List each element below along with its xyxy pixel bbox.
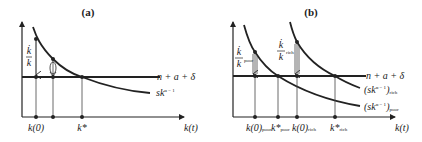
line-label: n + a + δ — [157, 71, 195, 82]
y-label-growth-rich: k̇ k rich — [277, 39, 294, 62]
x-axis-label: k(t) — [395, 122, 410, 134]
svg-text:rich: rich — [286, 50, 294, 55]
panel-b: (b) k̇ k poor — [233, 6, 410, 134]
tick-kstar-poor: k*poor — [271, 122, 290, 133]
savings-curve — [33, 27, 150, 93]
tick-kstar: k* — [77, 122, 86, 133]
line-label: n + a + δ — [366, 70, 404, 81]
tick-k0-rich: k(0)rich — [292, 122, 316, 134]
svg-text:poor: poor — [244, 58, 254, 63]
svg-text:k: k — [27, 57, 32, 68]
svg-text:k̇: k̇ — [27, 45, 32, 56]
panel-b-title: (b) — [304, 6, 318, 19]
curve-rich-label: (skα − 1)rich — [364, 84, 398, 96]
svg-text:k̇: k̇ — [237, 46, 242, 57]
svg-text:k: k — [237, 58, 242, 69]
savings-curve-poor — [244, 25, 360, 106]
panel-a-title: (a) — [82, 6, 95, 19]
savings-curve-rich — [290, 22, 360, 88]
y-label-growth-poor: k̇ k poor — [235, 46, 254, 69]
y-label-growth-rate: k̇ k — [26, 45, 32, 68]
curve-label: skα − 1 — [156, 87, 175, 98]
svg-text:k: k — [279, 51, 284, 62]
curve-poor-label: (skα − 1)poor — [364, 101, 399, 113]
x-axis-label: k(t) — [184, 122, 199, 134]
svg-text:k̇: k̇ — [279, 39, 284, 50]
tick-k0: k(0) — [28, 122, 45, 134]
tick-kstar-rich: k*rich — [330, 122, 348, 133]
solow-diagram: (a) k̇ k n + a + δ skα − — [0, 0, 422, 142]
tick-k0-poor: k(0)poor — [246, 122, 272, 134]
panel-a: (a) k̇ k n + a + δ skα − — [22, 6, 199, 134]
